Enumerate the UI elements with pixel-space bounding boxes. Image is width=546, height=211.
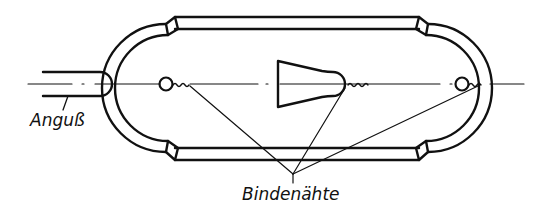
weld-line-leaders: [190, 86, 478, 183]
left-weld-line: [173, 84, 189, 87]
center-weld-line: [348, 84, 368, 87]
left-hole: [160, 78, 173, 91]
weld-lines-label: Bindenähte: [242, 184, 340, 204]
sprue-label: Anguß: [29, 110, 85, 130]
mold-part-drawing: Anguß Bindenähte: [0, 0, 546, 211]
sprue-leader-line: [63, 96, 68, 110]
right-hole: [456, 78, 469, 91]
